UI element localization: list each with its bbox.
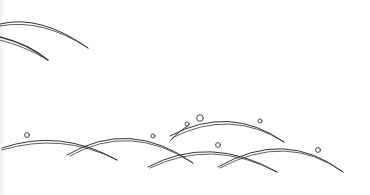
arc-4 — [148, 143, 277, 172]
top-arc-group — [0, 22, 88, 60]
arc-5 — [218, 148, 343, 172]
small-blade — [170, 126, 188, 141]
arc-1 — [2, 133, 117, 160]
arc-3 — [170, 115, 284, 142]
arcs-illustration — [0, 0, 370, 195]
